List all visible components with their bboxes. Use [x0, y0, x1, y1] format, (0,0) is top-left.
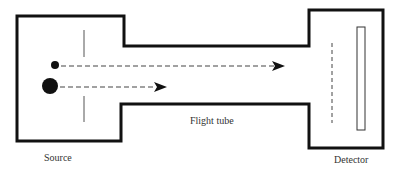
light-ion-icon	[51, 61, 59, 69]
detector-plate	[357, 27, 365, 130]
instrument-outline	[17, 10, 383, 148]
heavy-ion-arrowhead-icon	[154, 82, 167, 92]
source-label: Source	[44, 153, 72, 163]
flight-tube-label: Flight tube	[190, 116, 234, 126]
heavy-ion-icon	[42, 78, 58, 94]
tof-diagram	[0, 0, 400, 171]
detector-label: Detector	[334, 155, 368, 165]
